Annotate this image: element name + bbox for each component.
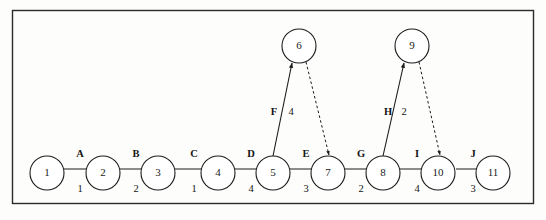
- edge-duration-a: 1: [77, 183, 82, 194]
- node-1-label: 1: [44, 166, 50, 178]
- edge-label-j: J: [470, 148, 475, 159]
- node-7: 7: [311, 156, 345, 190]
- edge-duration-c: 1: [191, 183, 196, 194]
- node-9: 9: [395, 29, 429, 63]
- node-9-label: 9: [409, 39, 415, 51]
- edge-duration-h: 2: [401, 106, 406, 117]
- node-8-label: 8: [380, 166, 386, 178]
- node-10-label: 10: [433, 166, 445, 178]
- edge-duration-b: 2: [133, 183, 138, 194]
- edge-label-h: H: [384, 106, 392, 117]
- edge-duration-e: 3: [303, 183, 308, 194]
- node-2: 2: [86, 156, 120, 190]
- node-8: 8: [366, 156, 400, 190]
- edge-duration-i: 4: [414, 183, 420, 194]
- edges-layer: [64, 62, 491, 169]
- edge-label-i: I: [415, 148, 419, 159]
- edge-label-f: F: [271, 106, 277, 117]
- edge-duration-f: 4: [288, 106, 294, 117]
- edge-label-d: D: [247, 148, 255, 159]
- node-11: 11: [476, 156, 510, 190]
- node-2-label: 2: [100, 166, 106, 178]
- node-1: 1: [30, 156, 64, 190]
- node-11-label: 11: [488, 166, 499, 178]
- edge-label-e: E: [302, 148, 309, 159]
- edge-dummy-9-10: [419, 62, 440, 155]
- node-5: 5: [256, 156, 290, 190]
- node-10: 10: [421, 156, 455, 190]
- node-3-label: 3: [155, 166, 161, 178]
- activity-network-diagram: 1234567891011 A1B2C1D4E3F4G2H2I4J3: [0, 0, 546, 220]
- node-6: 6: [282, 29, 316, 63]
- edge-duration-d: 4: [248, 183, 254, 194]
- node-4-label: 4: [215, 166, 221, 178]
- edge-label-g: G: [357, 148, 365, 159]
- edge-label-b: B: [132, 148, 139, 159]
- edge-dummy-6-7: [306, 62, 329, 155]
- node-4: 4: [201, 156, 235, 190]
- edge-duration-j: 3: [470, 183, 475, 194]
- edge-duration-g: 2: [358, 183, 363, 194]
- edge-label-a: A: [76, 148, 84, 159]
- network-diagram-page: 1234567891011 A1B2C1D4E3F4G2H2I4J3: [0, 0, 546, 220]
- node-3: 3: [141, 156, 175, 190]
- edge-label-c: C: [190, 148, 198, 159]
- node-7-label: 7: [325, 166, 331, 178]
- node-5-label: 5: [270, 166, 276, 178]
- node-6-label: 6: [296, 39, 302, 51]
